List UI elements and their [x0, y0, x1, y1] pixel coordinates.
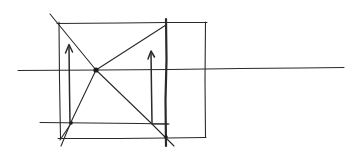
diagonal-secondary: [96, 25, 166, 70]
diagonal-to-bottom-left: [61, 70, 96, 146]
square-right-outer-edge: [205, 22, 206, 137]
arrow-left-shaft: [69, 47, 70, 123]
bottom-left-cross: [60, 122, 72, 140]
arrow-left: [66, 45, 73, 124]
horizon-line: [18, 68, 344, 71]
square-left-edge: [59, 22, 61, 138]
inner-vertical-right: [166, 19, 167, 146]
square-bottom-edge: [58, 138, 206, 139]
corner-dot-bottom-right: [164, 135, 168, 139]
arrow-right-shaft: [151, 53, 152, 123]
square-top-edge: [57, 23, 207, 24]
arrow-right: [148, 51, 155, 123]
inner-bottom-line: [40, 123, 168, 125]
sketch-canvas: [0, 0, 361, 154]
center-point: [93, 67, 98, 72]
